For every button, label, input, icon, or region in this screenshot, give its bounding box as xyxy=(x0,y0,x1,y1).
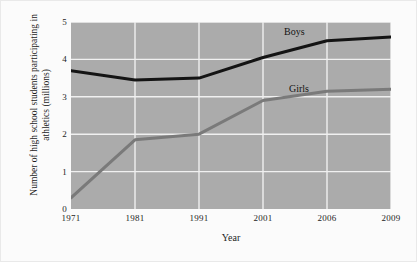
horizontal-gridlines xyxy=(71,22,391,172)
x-tick-label: 2001 xyxy=(254,214,273,223)
series-line-girls xyxy=(71,89,391,197)
x-tick-label: 1981 xyxy=(126,214,145,223)
vertical-gridlines xyxy=(135,22,391,209)
x-tick-label: 2006 xyxy=(318,214,337,223)
y-axis-title: Number of high school students participa… xyxy=(29,11,53,199)
x-axis-tick-labels: 197119811991200120062009 xyxy=(71,214,391,228)
plot-area xyxy=(71,22,391,209)
series-line-boys xyxy=(71,37,391,80)
x-tick-label: 2009 xyxy=(382,214,401,223)
series-label-girls: Girls xyxy=(289,84,309,94)
plot-svg xyxy=(71,22,391,209)
series-label-boys: Boys xyxy=(284,27,305,37)
x-axis-title: Year xyxy=(71,232,391,243)
series-lines xyxy=(71,37,391,198)
chart-figure: 012345 197119811991200120062009 Year Num… xyxy=(0,0,417,262)
x-tick-label: 1971 xyxy=(62,214,81,223)
x-tick-label: 1991 xyxy=(190,214,209,223)
